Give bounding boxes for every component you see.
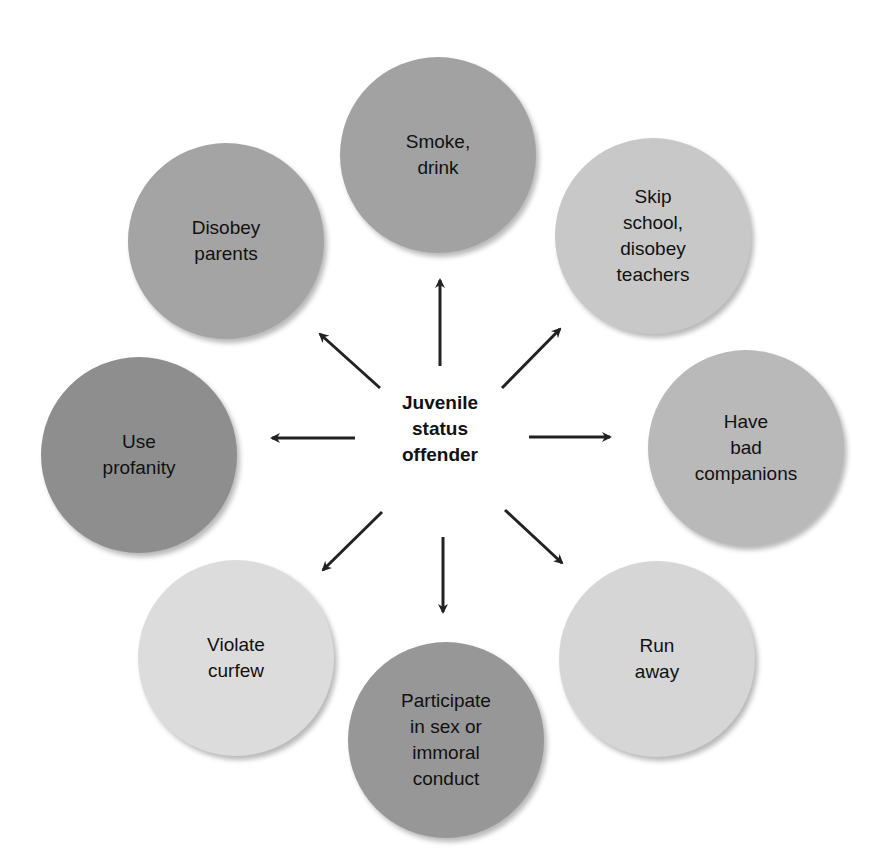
node-label: Smoke, drink [406, 129, 470, 181]
center-label: Juvenile status offender [365, 390, 515, 468]
node-label: Disobey parents [192, 215, 261, 267]
node-label: Use profanity [103, 429, 176, 481]
arrow-down-left-icon [323, 512, 382, 570]
node-label: Violate curfew [207, 632, 265, 684]
node-skip-school: Skip school, disobey teachers [555, 138, 751, 334]
status-offense-diagram: Juvenile status offender Smoke, drink Sk… [0, 0, 874, 855]
arrow-up-right-icon [502, 329, 560, 388]
node-violate-curfew: Violate curfew [138, 560, 334, 756]
node-bad-companions: Have bad companions [648, 350, 844, 546]
node-label: Skip school, disobey teachers [617, 184, 690, 288]
node-participate-sex: Participate in sex or immoral conduct [348, 642, 544, 838]
node-disobey-parents: Disobey parents [128, 143, 324, 339]
arrow-up-left-icon [320, 334, 380, 388]
node-run-away: Run away [559, 561, 755, 757]
node-label: Have bad companions [695, 409, 797, 487]
node-smoke-drink: Smoke, drink [340, 57, 536, 253]
node-label: Participate in sex or immoral conduct [401, 688, 491, 792]
arrow-down-right-icon [505, 510, 562, 563]
node-label: Run away [635, 633, 679, 685]
node-use-profanity: Use profanity [41, 357, 237, 553]
